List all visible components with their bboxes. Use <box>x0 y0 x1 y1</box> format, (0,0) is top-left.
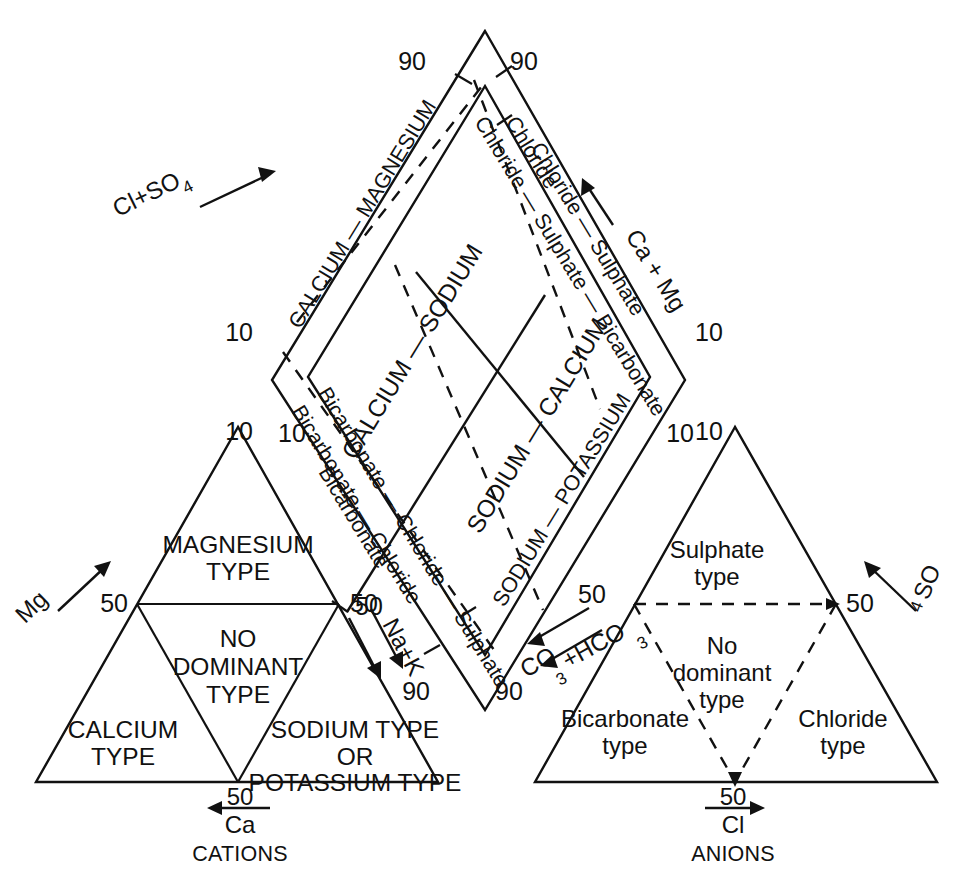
diamond-tick-bottom-left: 90 <box>402 677 430 705</box>
axis-value-cl-50: 50 <box>720 783 747 810</box>
cation-zone-calcium-line1: CALCIUM <box>68 716 178 743</box>
axis-label-cl-so4-sub: 4 <box>179 176 196 197</box>
axis-arrow-co3-hco3: CO 3 +HCO 3 <box>515 608 651 689</box>
axis-arrow-so4: SO 4 <box>864 561 946 615</box>
axis-cl: 50 Cl <box>705 783 765 838</box>
axis-label-so4-sub: 4 <box>906 599 927 615</box>
cation-zone-sodium-line1: SODIUM TYPE <box>271 716 439 743</box>
cation-zone-magnesium-line1: MAGNESIUM <box>162 531 313 558</box>
axis-label-cl-so4: Cl+SO <box>108 166 184 222</box>
cation-tick-apex-10: 10 <box>278 419 306 447</box>
cation-zone-calcium-line2: TYPE <box>91 743 155 770</box>
cation-caption: CATIONS <box>192 842 287 866</box>
axis-label-ca: Ca <box>225 811 256 838</box>
diamond-band-calcium-magnesium: CALCIUM — MAGNESIUM <box>284 96 441 333</box>
axis-label-hco3-sub: 3 <box>634 632 651 653</box>
cation-zone-sodium-line3: POTASSIUM TYPE <box>249 769 462 796</box>
axis-label-mg: Mg <box>10 585 53 628</box>
axis-arrow-mg: Mg <box>10 561 111 628</box>
diamond-tick-lower-right: 10 <box>695 417 723 445</box>
piper-diagram: 90 90 10 10 10 10 50 50 90 90 Cl+SO 4 Ca… <box>0 0 953 874</box>
axis-label-hco3: +HCO <box>557 617 629 673</box>
cation-zone-nodominant-line3: TYPE <box>206 681 270 708</box>
diamond-inner-outline <box>308 86 650 655</box>
cation-tick-left-50: 50 <box>100 589 128 617</box>
axis-label-na-k: Na+K <box>378 614 430 680</box>
axis-label-so4: SO <box>908 561 946 603</box>
anion-zone-sulphate-line1: Sulphate <box>670 536 765 563</box>
anion-zone-chloride-line1: Chloride <box>798 705 887 732</box>
anion-zone-chloride-line2: type <box>820 732 865 759</box>
diamond-tick-upper-left: 10 <box>225 318 253 346</box>
anion-tick-apex-10: 10 <box>666 419 694 447</box>
anion-zone-bicarbonate-line2: type <box>602 732 647 759</box>
piper-diagram-svg: 90 90 10 10 10 10 50 50 90 90 Cl+SO 4 Ca… <box>0 0 953 874</box>
axis-label-co3-sub: 3 <box>553 668 570 689</box>
diamond-zone-sodium-calcium: SODIUM — CALCIUM <box>461 313 612 537</box>
anion-zone-sulphate-line2: type <box>694 563 739 590</box>
cation-tick-right-50: 50 <box>350 589 378 617</box>
anion-zone-nodominant-line3: type <box>699 686 744 713</box>
anion-zone-nodominant-line2: dominant <box>673 659 772 686</box>
cation-zone-sodium-line2: OR <box>337 743 374 770</box>
diamond-tick-top-left: 90 <box>398 47 426 75</box>
anion-zone-nodominant-line1: No <box>707 632 738 659</box>
axis-arrow-cl-so4: Cl+SO 4 <box>108 166 276 222</box>
diamond-tick-top-right: 90 <box>510 47 538 75</box>
anion-caption: ANIONS <box>691 842 775 866</box>
anion-zone-bicarbonate-line1: Bicarbonate <box>561 705 689 732</box>
diamond-tick-upper-right: 10 <box>695 318 723 346</box>
cation-zone-nodominant-line2: DOMINANT <box>173 653 304 680</box>
diamond-tick-right-50: 50 <box>578 580 606 608</box>
anion-tick-right-50: 50 <box>846 589 874 617</box>
cation-zone-nodominant-line1: NO <box>220 625 257 652</box>
cation-zone-magnesium-line2: TYPE <box>206 558 270 585</box>
axis-label-cl: Cl <box>722 811 745 838</box>
